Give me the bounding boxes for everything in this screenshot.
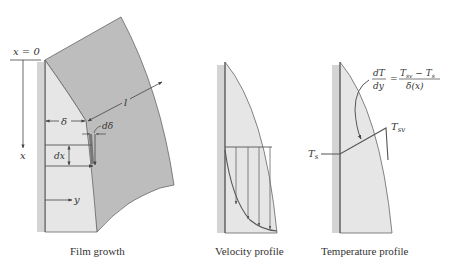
- gradient-equation: dT dy = Tsv − Ts δ(x): [372, 68, 440, 91]
- liquid-film: [340, 62, 392, 233]
- y-axis-label: y: [73, 194, 80, 205]
- wall: [332, 65, 340, 233]
- velocity-profile-caption: Velocity profile: [215, 245, 284, 257]
- wall: [37, 62, 45, 232]
- film-growth-panel: x = 0 x δ l dδ dx y Film growth: [10, 17, 174, 257]
- delta-label: δ: [61, 116, 67, 127]
- d-delta-label: dδ: [102, 121, 113, 131]
- svg-text:dT: dT: [373, 68, 386, 78]
- ts-label: Ts: [308, 148, 319, 161]
- temperature-profile-caption: Temperature profile: [321, 245, 409, 257]
- temperature-profile-panel: Ts Tsv dT dy = Tsv − Ts δ(x) Temperature…: [308, 62, 440, 257]
- origin-label: x = 0: [13, 46, 40, 57]
- svg-text:Tsv − Ts: Tsv − Ts: [400, 68, 435, 79]
- length-label: l: [124, 97, 127, 108]
- film-growth-caption: Film growth: [70, 245, 125, 257]
- liquid-film: [225, 62, 277, 233]
- svg-text:dy: dy: [373, 81, 385, 91]
- x-axis-label: x: [20, 150, 26, 161]
- condensation-diagram: x = 0 x δ l dδ dx y Film growth: [0, 0, 449, 268]
- dx-label: dx: [54, 151, 65, 161]
- wall: [217, 65, 225, 233]
- tsv-label: Tsv: [391, 121, 405, 134]
- velocity-profile-panel: Velocity profile: [215, 62, 284, 257]
- svg-text:δ(x): δ(x): [406, 81, 424, 91]
- svg-text:=: =: [390, 74, 398, 84]
